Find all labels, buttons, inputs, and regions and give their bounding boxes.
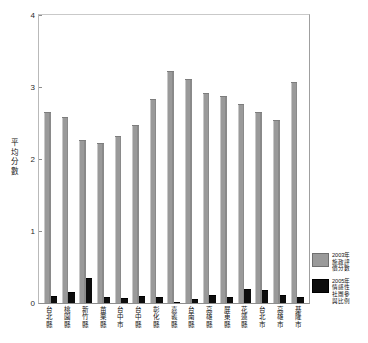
bar-governance-score [44, 112, 51, 303]
bar-group [271, 15, 289, 303]
y-axis-tick: 3 [31, 83, 39, 92]
bar-participation-rate [297, 297, 304, 303]
x-axis-label-char: 化 [147, 313, 165, 320]
legend-label-line: 社團參 [332, 291, 350, 298]
x-axis-label-char: 縣 [201, 321, 219, 328]
bar-participation-rate [280, 295, 287, 303]
bars-container [39, 15, 309, 303]
bar-participation-rate [156, 297, 163, 303]
bar-group [60, 15, 78, 303]
x-axis-label-char: 雄 [201, 313, 219, 320]
x-axis-labels: 台北縣桃園縣新竹縣苗栗縣台中市台中縣彰化縣嘉義縣台南縣高雄縣屏東縣花蓮縣台北市高… [38, 306, 310, 340]
bar-group [183, 15, 201, 303]
legend-label: 2005年情感性社團參與比例 [332, 278, 350, 304]
x-axis-tick-label: 屏東縣 [218, 306, 236, 340]
x-axis-tick-label: 台中市 [112, 306, 130, 340]
bar-group [218, 15, 236, 303]
bar-group [95, 15, 113, 303]
bar-governance-score [203, 93, 210, 303]
legend-label-line: 與比例 [332, 298, 350, 305]
bar-group [200, 15, 218, 303]
x-axis-tick-label: 高雄縣 [201, 306, 219, 340]
legend-swatch-governance [312, 253, 329, 267]
x-axis-tick-label: 基隆市 [289, 306, 307, 340]
x-axis-label-char: 縣 [218, 321, 236, 328]
y-axis-label-char: 分 [8, 157, 20, 167]
y-axis-tick: 2 [31, 155, 39, 164]
y-axis-tick: 1 [31, 227, 39, 236]
bar-group [112, 15, 130, 303]
x-axis-label-char: 栗 [94, 313, 112, 320]
x-axis-tick-label: 嘉義縣 [165, 306, 183, 340]
x-axis-label-char: 縣 [147, 321, 165, 328]
legend-label-line: 情感性 [332, 284, 350, 291]
bar-governance-score [273, 120, 280, 303]
x-axis-label-char: 竹 [76, 313, 94, 320]
bar-governance-score [238, 104, 245, 303]
bar-governance-score [115, 136, 122, 303]
x-axis-label-char: 雄 [272, 313, 290, 320]
bar-group [253, 15, 271, 303]
y-axis-tick: 4 [31, 11, 39, 20]
bar-group [42, 15, 60, 303]
x-axis-label-char: 台 [254, 306, 272, 313]
bar-participation-rate [209, 295, 216, 303]
x-axis-label-char: 縣 [76, 321, 94, 328]
x-axis-tick-label: 台北縣 [41, 306, 59, 340]
chart-legend: 2003年施政評價分數2005年情感性社團參與比例 [312, 252, 368, 310]
bar-group [130, 15, 148, 303]
bar-governance-score [185, 79, 192, 303]
x-axis-tick-label: 桃園縣 [59, 306, 77, 340]
bar-group [288, 15, 306, 303]
bar-governance-score [132, 125, 139, 303]
x-axis-label-char: 台 [41, 306, 59, 313]
y-axis-label-char: 數 [8, 167, 20, 177]
x-axis-label-char: 南 [183, 313, 201, 320]
bar-governance-score [220, 96, 227, 303]
x-axis-label-char: 中 [112, 313, 130, 320]
x-axis-label-char: 東 [218, 313, 236, 320]
x-axis-label-char: 市 [112, 321, 130, 328]
bar-governance-score [167, 71, 174, 303]
legend-entry: 2003年施政評價分數 [312, 252, 368, 272]
x-axis-label-char: 苗 [94, 306, 112, 313]
bar-group [165, 15, 183, 303]
x-axis-label-char: 縣 [183, 321, 201, 328]
x-axis-label-char: 義 [165, 313, 183, 320]
bar-participation-rate [51, 296, 58, 303]
bar-group [148, 15, 166, 303]
x-axis-label-char: 市 [272, 321, 290, 328]
x-axis-label-char: 隆 [289, 313, 307, 320]
x-axis-label-char: 中 [130, 313, 148, 320]
x-axis-label-char: 市 [254, 321, 272, 328]
x-axis-tick-label: 台中縣 [130, 306, 148, 340]
bar-participation-rate [139, 296, 146, 303]
x-axis-tick-label: 台北市 [254, 306, 272, 340]
bar-participation-rate [68, 292, 75, 303]
y-axis-label: 平均分數 [8, 138, 20, 176]
bar-governance-score [255, 112, 262, 303]
x-axis-tick-label: 花蓮縣 [236, 306, 254, 340]
bar-participation-rate [104, 297, 111, 303]
legend-label: 2003年施政評價分數 [332, 252, 350, 272]
y-axis-label-char: 平 [8, 138, 20, 148]
x-axis-label-char: 縣 [165, 321, 183, 328]
legend-swatch-participation [312, 279, 329, 293]
bar-participation-rate [227, 297, 234, 303]
bar-participation-rate [174, 302, 181, 303]
legend-entry: 2005年情感性社團參與比例 [312, 278, 368, 304]
bar-group [77, 15, 95, 303]
bar-participation-rate [244, 289, 251, 303]
x-axis-label-char: 桃 [59, 306, 77, 313]
x-axis-label-char: 縣 [130, 321, 148, 328]
legend-label-line: 價分數 [332, 265, 350, 272]
x-axis-label-char: 北 [254, 313, 272, 320]
y-axis-label-char: 均 [8, 148, 20, 158]
bar-group [236, 15, 254, 303]
bar-governance-score [62, 117, 69, 303]
x-axis-label-char: 縣 [236, 321, 254, 328]
legend-label-line: 2003年 [332, 252, 350, 259]
bar-participation-rate [192, 299, 199, 303]
x-axis-label-char: 縣 [59, 321, 77, 328]
bar-participation-rate [121, 298, 128, 303]
